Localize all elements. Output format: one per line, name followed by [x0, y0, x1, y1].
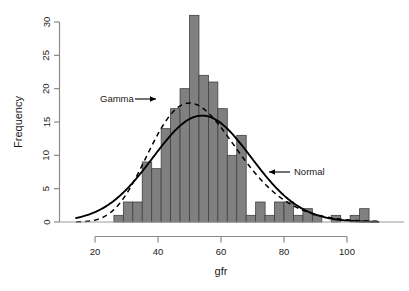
- histogram-bar: [161, 129, 170, 222]
- x-axis-tick-label: 60: [216, 246, 227, 257]
- histogram-bar: [199, 75, 208, 222]
- x-axis-title: gfr: [215, 265, 228, 277]
- histogram-bar: [171, 109, 180, 222]
- y-axis: 051015202530: [41, 17, 60, 225]
- y-axis-tick-label: 20: [41, 83, 52, 94]
- y-axis-tick-label: 10: [41, 150, 52, 161]
- gamma-annotation-label: Gamma: [100, 93, 135, 104]
- histogram-bar: [123, 202, 132, 222]
- x-axis-tick-label: 100: [339, 246, 355, 257]
- histogram-bar: [265, 215, 274, 222]
- histogram-bar: [246, 215, 255, 222]
- histogram-bar: [208, 82, 217, 222]
- chart-canvas: 051015202530 20406080100 Frequency gfr G…: [0, 0, 409, 291]
- histogram-bar: [293, 215, 302, 222]
- x-axis-ticks: 20406080100: [90, 237, 355, 258]
- histogram-bar: [180, 89, 189, 222]
- histogram-bar: [114, 215, 123, 222]
- x-axis-tick-label: 80: [279, 246, 290, 257]
- y-axis-tick-label: 15: [41, 117, 52, 128]
- y-axis-ticks: 051015202530: [41, 17, 60, 225]
- y-axis-title: Frequency: [12, 96, 24, 148]
- y-axis-tick-label: 5: [41, 186, 52, 191]
- x-axis-tick-label: 40: [153, 246, 164, 257]
- histogram-bar: [133, 202, 142, 222]
- y-axis-tick-label: 25: [41, 50, 52, 61]
- normal-annotation-label: Normal: [294, 166, 325, 177]
- histogram-bar: [360, 209, 369, 222]
- histogram-bar: [152, 169, 161, 222]
- y-axis-tick-label: 0: [41, 219, 52, 224]
- y-axis-tick-label: 30: [41, 17, 52, 28]
- histogram-bar: [227, 155, 236, 222]
- gamma-annotation: Gamma: [100, 93, 156, 104]
- histogram-bars: [114, 15, 369, 222]
- histogram-bar: [284, 202, 293, 222]
- histogram-bar: [275, 202, 284, 222]
- normal-annotation: Normal: [269, 166, 325, 177]
- gamma-arrow-head: [150, 96, 156, 102]
- normal-arrow-head: [269, 169, 275, 175]
- histogram-figure: 051015202530 20406080100 Frequency gfr G…: [0, 0, 409, 291]
- x-axis: 20406080100: [90, 237, 355, 258]
- x-axis-tick-label: 20: [90, 246, 101, 257]
- histogram-bar: [256, 202, 265, 222]
